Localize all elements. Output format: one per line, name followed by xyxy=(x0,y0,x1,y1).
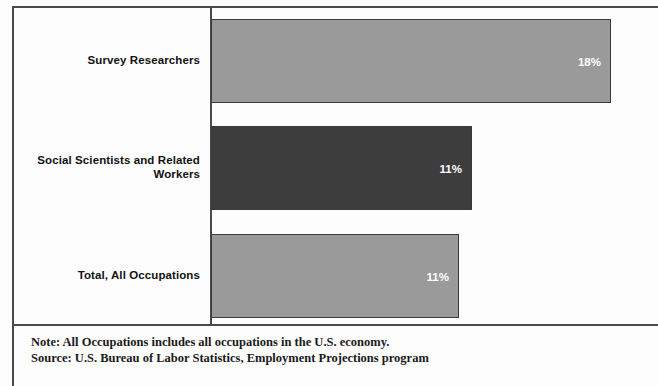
plot-area: Survey Researchers 18% Social Scientists… xyxy=(14,8,658,324)
note-text: Note: All Occupations includes all occup… xyxy=(31,334,631,350)
bar-row: Total, All Occupations 11% xyxy=(14,223,658,326)
chart-figure: Survey Researchers 18% Social Scientists… xyxy=(0,0,658,386)
bar-category-label-line2: Workers xyxy=(153,168,200,180)
bar-social-scientists-and-related-workers: 11% xyxy=(211,126,472,210)
bar-row: Social Scientists and Related Workers 11… xyxy=(14,115,658,220)
bar-value-label: 11% xyxy=(440,162,462,176)
bar-row: Survey Researchers 18% xyxy=(14,8,658,113)
bar-category-label: Social Scientists and Related Workers xyxy=(14,153,200,181)
bar-value-label: 18% xyxy=(578,55,601,69)
bar-category-label-line1: Survey Researchers xyxy=(88,54,200,66)
bar-category-label: Survey Researchers xyxy=(14,53,200,67)
bar-total-all-occupations: 11% xyxy=(211,234,459,318)
source-text: Source: U.S. Bureau of Labor Statistics,… xyxy=(31,350,631,366)
bar-category-label-line1: Social Scientists and Related xyxy=(37,154,200,166)
chart-notes: Note: All Occupations includes all occup… xyxy=(31,334,631,366)
bar-category-label-line1: Total, All Occupations xyxy=(78,269,200,281)
bar-value-label: 11% xyxy=(427,270,449,284)
bar-category-label: Total, All Occupations xyxy=(14,268,200,282)
bar-survey-researchers: 18% xyxy=(211,19,611,103)
